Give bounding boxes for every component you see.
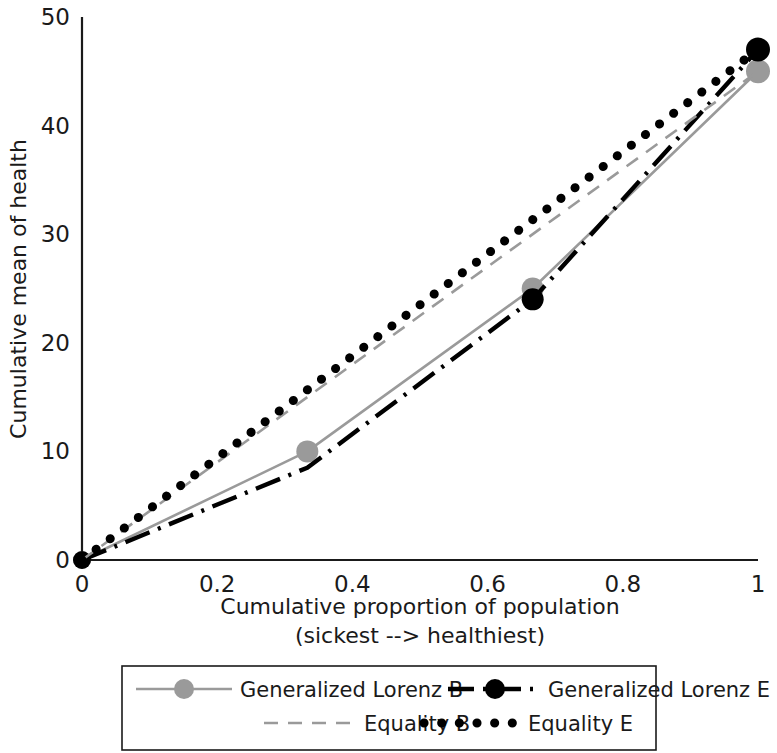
x-tick-label: 0	[75, 571, 90, 597]
x-axis-subtitle: (sickest --> healthiest)	[295, 623, 545, 648]
chart-figure: 01020304050 00.20.40.60.81 Cumulative me…	[0, 0, 777, 753]
data-point-marker	[522, 288, 544, 310]
data-point-marker	[746, 38, 770, 62]
generalized-lorenz-curve-chart: 01020304050 00.20.40.60.81 Cumulative me…	[0, 0, 777, 753]
y-tick-label: 0	[55, 547, 70, 573]
legend-label: Equality B	[364, 712, 470, 736]
data-point-marker	[746, 59, 770, 83]
legend-label: Generalized Lorenz E	[548, 678, 770, 702]
legend-label: Generalized Lorenz B	[240, 678, 463, 702]
y-tick-label: 30	[41, 221, 70, 247]
y-tick-label: 10	[41, 438, 70, 464]
y-axis-title: Cumulative mean of health	[6, 139, 31, 439]
y-tick-label: 40	[41, 113, 70, 139]
legend-entry-generalized-lorenz-b[interactable]: Generalized Lorenz B	[136, 678, 463, 702]
legend-marker-sample	[174, 679, 194, 699]
legend-marker-sample	[485, 679, 505, 699]
x-tick-label: 1	[751, 571, 766, 597]
data-point-marker	[296, 440, 318, 462]
x-axis-title: Cumulative proportion of population	[220, 594, 619, 619]
y-tick-label: 20	[41, 330, 70, 356]
y-tick-label: 50	[41, 4, 70, 30]
legend-label: Equality E	[528, 712, 633, 736]
legend-entry-generalized-lorenz-e[interactable]: Generalized Lorenz E	[448, 678, 770, 702]
